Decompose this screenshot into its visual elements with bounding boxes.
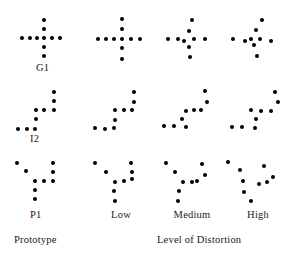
row-label-g1: G1 xyxy=(36,62,49,73)
column-label-low: Low xyxy=(96,209,146,220)
pattern-dot xyxy=(42,27,47,32)
pattern-dot xyxy=(195,179,200,184)
pattern-dot xyxy=(273,90,278,95)
pattern-dot xyxy=(42,18,47,23)
pattern-dot xyxy=(112,189,117,194)
pattern-dot xyxy=(260,18,265,23)
dot-field xyxy=(8,88,80,146)
pattern-cell-p1-medium xyxy=(156,158,228,216)
pattern-dot xyxy=(130,108,135,113)
pattern-dot xyxy=(255,54,260,59)
pattern-dot xyxy=(187,29,192,34)
pattern-dot xyxy=(50,36,55,41)
pattern-dot xyxy=(42,36,47,41)
pattern-dot xyxy=(257,182,262,187)
axis-label-level-of-distortion: Level of Distortion xyxy=(157,234,241,245)
dot-field xyxy=(156,14,228,72)
pattern-dot xyxy=(164,161,169,166)
pattern-dot xyxy=(42,45,47,50)
pattern-dot xyxy=(249,37,254,42)
dot-field xyxy=(86,14,158,72)
row-label-p1: P1 xyxy=(30,209,42,220)
pattern-dot xyxy=(112,37,117,42)
pattern-dot xyxy=(192,108,197,113)
pattern-dot xyxy=(182,39,187,44)
pattern-dot xyxy=(199,108,204,113)
pattern-dot xyxy=(104,37,109,42)
pattern-dot xyxy=(231,37,236,42)
pattern-cell-g1-medium xyxy=(156,14,228,72)
pattern-dot xyxy=(104,170,109,175)
pattern-dot xyxy=(51,161,56,166)
pattern-dot xyxy=(132,100,137,105)
pattern-dot xyxy=(265,180,270,185)
pattern-dot xyxy=(180,117,185,122)
pattern-dot xyxy=(33,127,38,132)
pattern-cell-i2-low xyxy=(86,88,158,146)
pattern-cell-p1-low xyxy=(86,158,158,216)
pattern-dot xyxy=(203,89,208,94)
dot-field xyxy=(8,158,80,216)
pattern-dot xyxy=(190,180,195,185)
row-label-i2: I2 xyxy=(30,133,39,144)
pattern-dot xyxy=(42,54,47,59)
pattern-cell-g1-low xyxy=(86,14,158,72)
pattern-dot xyxy=(52,108,57,113)
pattern-dot xyxy=(42,179,47,184)
pattern-dot xyxy=(190,18,195,23)
pattern-dot xyxy=(276,100,281,105)
pattern-dot xyxy=(129,161,134,166)
pattern-dot xyxy=(25,127,30,132)
pattern-cell-g1-high xyxy=(224,14,296,72)
pattern-dot xyxy=(254,117,259,122)
pattern-cell-i2-medium xyxy=(156,88,228,146)
pattern-dot xyxy=(200,162,205,167)
pattern-dot xyxy=(15,161,20,166)
pattern-dot xyxy=(51,170,56,175)
pattern-dot xyxy=(249,199,254,204)
pattern-dot xyxy=(162,124,167,129)
pattern-dot xyxy=(58,36,63,41)
pattern-dot xyxy=(122,108,127,113)
pattern-dot xyxy=(241,179,246,184)
column-label-high: High xyxy=(236,209,280,220)
pattern-dot xyxy=(129,37,134,42)
column-label-medium: Medium xyxy=(163,209,221,220)
pattern-dot xyxy=(42,108,47,113)
pattern-dot xyxy=(238,168,243,173)
pattern-dot xyxy=(96,37,101,42)
pattern-dot xyxy=(120,37,125,42)
pattern-dot xyxy=(176,37,181,42)
pattern-dot xyxy=(93,161,98,166)
dot-field xyxy=(86,88,158,146)
pattern-dot xyxy=(52,90,57,95)
pattern-dot xyxy=(230,125,235,130)
pattern-dot xyxy=(258,37,263,42)
pattern-dot xyxy=(34,117,39,122)
pattern-dot xyxy=(259,109,264,114)
pattern-dot xyxy=(93,126,98,131)
pattern-dot xyxy=(205,100,210,105)
pattern-dot xyxy=(187,45,192,50)
pattern-dot xyxy=(113,118,118,123)
pattern-dot xyxy=(52,99,57,104)
pattern-dot xyxy=(122,179,127,184)
pattern-cell-i2-prototype xyxy=(8,88,80,146)
pattern-dot xyxy=(192,37,197,42)
pattern-dot xyxy=(28,36,33,41)
dot-field xyxy=(224,14,296,72)
pattern-dot xyxy=(24,169,29,174)
pattern-dot xyxy=(203,173,208,178)
pattern-dot xyxy=(240,125,245,130)
pattern-dot xyxy=(120,17,125,22)
pattern-dot xyxy=(20,36,25,41)
pattern-dot xyxy=(262,164,267,169)
pattern-dot xyxy=(226,160,231,165)
pattern-dot xyxy=(33,188,38,193)
pattern-dot xyxy=(132,90,137,95)
dot-field xyxy=(156,88,228,146)
pattern-dot xyxy=(113,180,118,185)
pattern-cell-i2-high xyxy=(224,88,296,146)
pattern-dot xyxy=(130,177,135,182)
pattern-cell-p1-high xyxy=(224,158,296,216)
